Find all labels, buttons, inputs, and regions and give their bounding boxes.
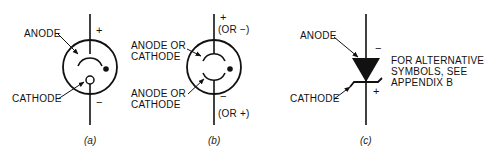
caption-c: (c) xyxy=(360,135,372,146)
upper-electrode-arc xyxy=(203,54,225,61)
lower-electrode-label-line1: ANODE OR xyxy=(131,88,186,99)
minus-sign: − xyxy=(220,90,226,102)
anode-label: ANODE xyxy=(24,28,61,39)
diode-triangle xyxy=(352,58,380,82)
anode-label: ANODE xyxy=(300,30,337,41)
plus-sign: + xyxy=(96,24,102,36)
minus-sign: − xyxy=(96,96,102,108)
cathode-label: CATHODE xyxy=(290,93,340,104)
gas-fill-dot xyxy=(103,66,109,72)
caption-b: (b) xyxy=(208,135,220,146)
diagram-canvas: + − ANODE CATHODE (a) + (OR −) − (OR +) … xyxy=(0,0,491,157)
alt-symbols-note-line1: FOR ALTERNATIVE xyxy=(391,55,484,66)
minus-sign: − xyxy=(375,42,381,54)
plus-sign: + xyxy=(220,11,226,23)
or-plus-note: (OR +) xyxy=(218,108,249,119)
upper-electrode-label-line1: ANODE OR xyxy=(131,40,186,51)
figure-b: + (OR −) − (OR +) ANODE OR CATHODE ANODE… xyxy=(131,11,249,146)
cathode-ring xyxy=(86,76,94,84)
caption-a: (a) xyxy=(84,135,96,146)
figure-a: + − ANODE CATHODE (a) xyxy=(12,14,117,146)
gas-fill-dot xyxy=(227,66,233,72)
cathode-pointer-arrow xyxy=(58,82,84,99)
lower-electrode-arc xyxy=(203,73,225,80)
cathode-label: CATHODE xyxy=(12,93,62,104)
alt-symbols-note-line3: APPENDIX B xyxy=(391,77,453,88)
or-minus-note: (OR −) xyxy=(218,24,249,35)
alt-symbols-note-line2: SYMBOLS, SEE xyxy=(391,66,467,77)
plus-sign: + xyxy=(373,85,379,97)
figure-c: − + ANODE CATHODE FOR ALTERNATIVE SYMBOL… xyxy=(290,14,484,146)
anode-pointer-arrow xyxy=(334,37,358,57)
upper-electrode-label-line2: CATHODE xyxy=(131,51,181,62)
lower-electrode-label-line2: CATHODE xyxy=(131,99,181,110)
anode-arc xyxy=(78,58,102,66)
